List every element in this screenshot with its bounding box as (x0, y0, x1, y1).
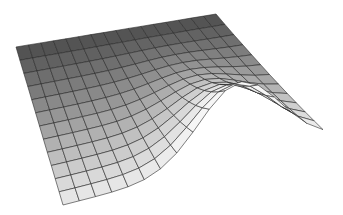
surface-mesh (16, 14, 323, 205)
surface-plot-canvas (0, 0, 343, 215)
surface-plot (0, 0, 343, 215)
